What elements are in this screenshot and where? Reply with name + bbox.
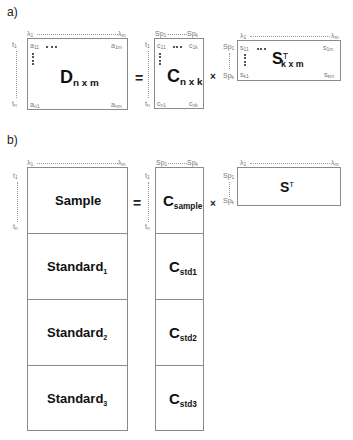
equals-sign: =	[135, 71, 143, 85]
c-top-ellipsis	[173, 46, 182, 48]
d-cell-tl: a11	[30, 42, 39, 50]
s-top-ellipsis	[257, 48, 266, 50]
c-cell-tr: c1k	[189, 42, 198, 50]
label-c-std1: Cstd1	[169, 259, 197, 277]
label-sample: Sample	[55, 194, 101, 210]
label-standard-3: Standard3	[47, 392, 107, 408]
d-name: Dn x m	[60, 68, 99, 88]
c-row-dots	[148, 51, 149, 98]
bd-col-first: λ1	[27, 159, 33, 167]
s-left-ellipsis	[244, 54, 246, 66]
d-row-last: tn	[12, 100, 17, 108]
label-standard-2: Standard2	[47, 326, 107, 342]
d-col-first: λ1	[27, 30, 33, 38]
c-col-first: Sp1	[155, 30, 166, 38]
equals-sign-b: =	[133, 196, 141, 210]
c-cell-br: cnk	[189, 100, 198, 108]
label-standard-1: Standard1	[47, 260, 107, 276]
c-cell-tl: c11	[157, 42, 166, 50]
s-col-first: λ1	[240, 32, 246, 40]
bd-col-dots	[37, 163, 118, 164]
bc-row-first: t1	[145, 172, 150, 180]
bs-col-first: λ1	[240, 159, 246, 167]
c-row-last: tn	[145, 100, 150, 108]
d-col-last: λm	[118, 30, 126, 38]
d-cell-br: anm	[111, 101, 122, 109]
times-sign-b: ×	[210, 199, 216, 209]
panel-a-label: a)	[7, 5, 18, 19]
bd-row-dots	[17, 182, 18, 222]
c-col-last: Spk	[187, 30, 198, 38]
panel-b-label: b)	[7, 133, 18, 147]
d-top-ellipsis	[46, 46, 57, 48]
label-c-std2: Cstd2	[169, 325, 197, 343]
label-c-sample: Csample	[163, 193, 202, 211]
d-row-first: t1	[12, 41, 17, 49]
d-row-dots	[16, 51, 17, 98]
bs-col-dots	[250, 163, 330, 164]
s-name: STk x m	[272, 51, 304, 69]
s-row-dots	[229, 53, 230, 69]
c-name: Cn x k	[167, 67, 203, 87]
bc-col-last: Spk	[187, 159, 198, 167]
bd-row-last: tn	[13, 223, 18, 231]
s-row-first: Sp1	[223, 43, 234, 51]
bd-col-last: λm	[118, 159, 126, 167]
bd-row-first: t1	[13, 172, 18, 180]
s-cell-br: skm	[324, 71, 334, 79]
s-col-dots	[250, 36, 330, 37]
bs-col-last: λm	[331, 159, 339, 167]
c-left-ellipsis	[159, 53, 161, 65]
bc-row-dots	[148, 182, 149, 222]
c-row-first: t1	[145, 41, 150, 49]
d-col-dots	[37, 34, 118, 35]
bs-row-first: Sp1	[223, 172, 234, 180]
s-cell-bl: sk1	[240, 71, 249, 79]
d-cell-bl: an1	[30, 101, 39, 109]
c-cell-bl: cn1	[157, 100, 166, 108]
bs-row-last: Spk	[223, 197, 234, 205]
d-left-ellipsis	[32, 53, 34, 65]
s-cell-tl: s11	[240, 44, 249, 52]
s-col-last: λm	[331, 32, 339, 40]
label-c-std3: Cstd3	[169, 391, 197, 409]
times-sign: ×	[210, 72, 216, 82]
bc-row-last: tn	[145, 223, 150, 231]
d-cell-tr: a1m	[111, 42, 122, 50]
bc-col-first: Sp1	[156, 159, 167, 167]
bc-col-dots	[168, 163, 187, 164]
s-cell-tr: s1m	[323, 44, 333, 52]
st-label-b: ST	[280, 180, 294, 194]
bs-row-dots	[229, 182, 230, 197]
s-row-last: Spk	[223, 72, 234, 80]
c-col-dots	[168, 34, 187, 35]
